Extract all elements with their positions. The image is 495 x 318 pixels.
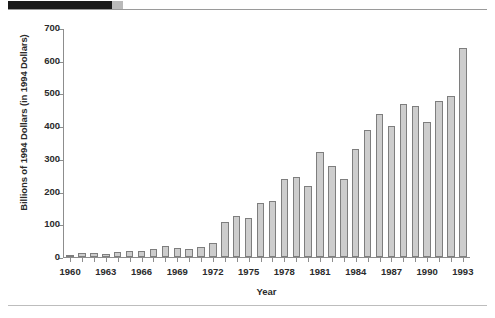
x-tick-label: 1984	[345, 266, 366, 277]
bar	[90, 253, 97, 257]
x-tick-label: 1972	[202, 266, 223, 277]
x-tick-mark	[391, 258, 392, 262]
x-tick-mark	[261, 258, 262, 262]
bar	[150, 249, 157, 257]
bar	[245, 218, 252, 257]
y-tick-label: 400	[44, 120, 60, 131]
x-tick-mark	[130, 258, 131, 262]
bar	[459, 48, 466, 257]
bar	[197, 247, 204, 257]
y-tick-label: 100	[44, 218, 60, 229]
x-tick-mark	[308, 258, 309, 262]
x-tick-label: 1966	[131, 266, 152, 277]
x-tick-mark	[213, 258, 214, 262]
x-tick-mark	[82, 258, 83, 262]
bar	[364, 130, 371, 257]
x-tick-mark	[332, 258, 333, 262]
bar	[388, 126, 395, 258]
bar	[328, 166, 335, 257]
x-tick-mark	[70, 258, 71, 262]
bar	[209, 243, 216, 257]
x-tick-label: 1990	[417, 266, 438, 277]
x-tick-label: 1963	[95, 266, 116, 277]
x-tick-label: 1993	[452, 266, 473, 277]
x-tick-mark	[284, 258, 285, 262]
y-tick-label: 600	[44, 55, 60, 66]
x-axis-title: Year	[63, 286, 470, 297]
bar	[376, 114, 383, 257]
bar	[412, 106, 419, 257]
bar	[185, 249, 192, 257]
bar	[78, 253, 85, 257]
x-tick-label: 1975	[238, 266, 259, 277]
x-tick-mark	[344, 258, 345, 262]
bar-chart-figure: Billions of 1994 Dollars (in 1994 Dollar…	[0, 10, 495, 305]
bar	[257, 203, 264, 257]
x-tick-mark	[118, 258, 119, 262]
x-tick-label: 1981	[309, 266, 330, 277]
bottom-horizontal-rule	[8, 305, 487, 306]
x-axis-line	[63, 257, 470, 258]
x-tick-mark	[94, 258, 95, 262]
y-axis-title: Billions of 1994 Dollars (in 1994 Dollar…	[18, 18, 29, 228]
bar	[352, 149, 359, 257]
x-tick-mark	[403, 258, 404, 262]
x-tick-mark	[380, 258, 381, 262]
x-tick-label: 1987	[381, 266, 402, 277]
x-tick-mark	[451, 258, 452, 262]
bar	[447, 96, 454, 257]
y-tick-label: 300	[44, 153, 60, 164]
bar	[316, 152, 323, 257]
bar	[162, 246, 169, 257]
x-tick-mark	[237, 258, 238, 262]
x-tick-mark	[177, 258, 178, 262]
x-tick-mark	[368, 258, 369, 262]
x-tick-mark	[415, 258, 416, 262]
plot-area: 0100200300400500600700 19601963196619691…	[63, 29, 470, 258]
bar	[102, 254, 109, 257]
x-tick-mark	[165, 258, 166, 262]
y-axis-line	[63, 29, 64, 258]
bar	[174, 248, 181, 257]
x-tick-label: 1960	[60, 266, 81, 277]
x-tick-label: 1969	[167, 266, 188, 277]
bar	[269, 201, 276, 257]
x-tick-mark	[463, 258, 464, 262]
bar	[221, 222, 228, 257]
bar	[293, 177, 300, 257]
x-tick-mark	[153, 258, 154, 262]
x-tick-mark	[201, 258, 202, 262]
x-tick-mark	[356, 258, 357, 262]
x-tick-mark	[249, 258, 250, 262]
bar	[138, 251, 145, 257]
bar	[114, 252, 121, 257]
bar	[126, 251, 133, 257]
bar	[233, 216, 240, 257]
x-tick-mark	[225, 258, 226, 262]
bar	[281, 179, 288, 257]
x-tick-mark	[439, 258, 440, 262]
x-tick-mark	[142, 258, 143, 262]
y-tick-label: 200	[44, 186, 60, 197]
x-tick-mark	[296, 258, 297, 262]
x-tick-mark	[427, 258, 428, 262]
y-tick-label: 0	[55, 251, 60, 262]
x-tick-mark	[189, 258, 190, 262]
y-tick-label: 700	[44, 22, 60, 33]
x-tick-mark	[320, 258, 321, 262]
x-tick-mark	[272, 258, 273, 262]
y-tick-label: 500	[44, 87, 60, 98]
bar	[400, 104, 407, 257]
bar	[304, 186, 311, 257]
bar	[66, 255, 73, 257]
bar	[340, 179, 347, 257]
x-tick-label: 1978	[274, 266, 295, 277]
bar	[435, 101, 442, 257]
x-tick-mark	[106, 258, 107, 262]
bar	[423, 122, 430, 257]
